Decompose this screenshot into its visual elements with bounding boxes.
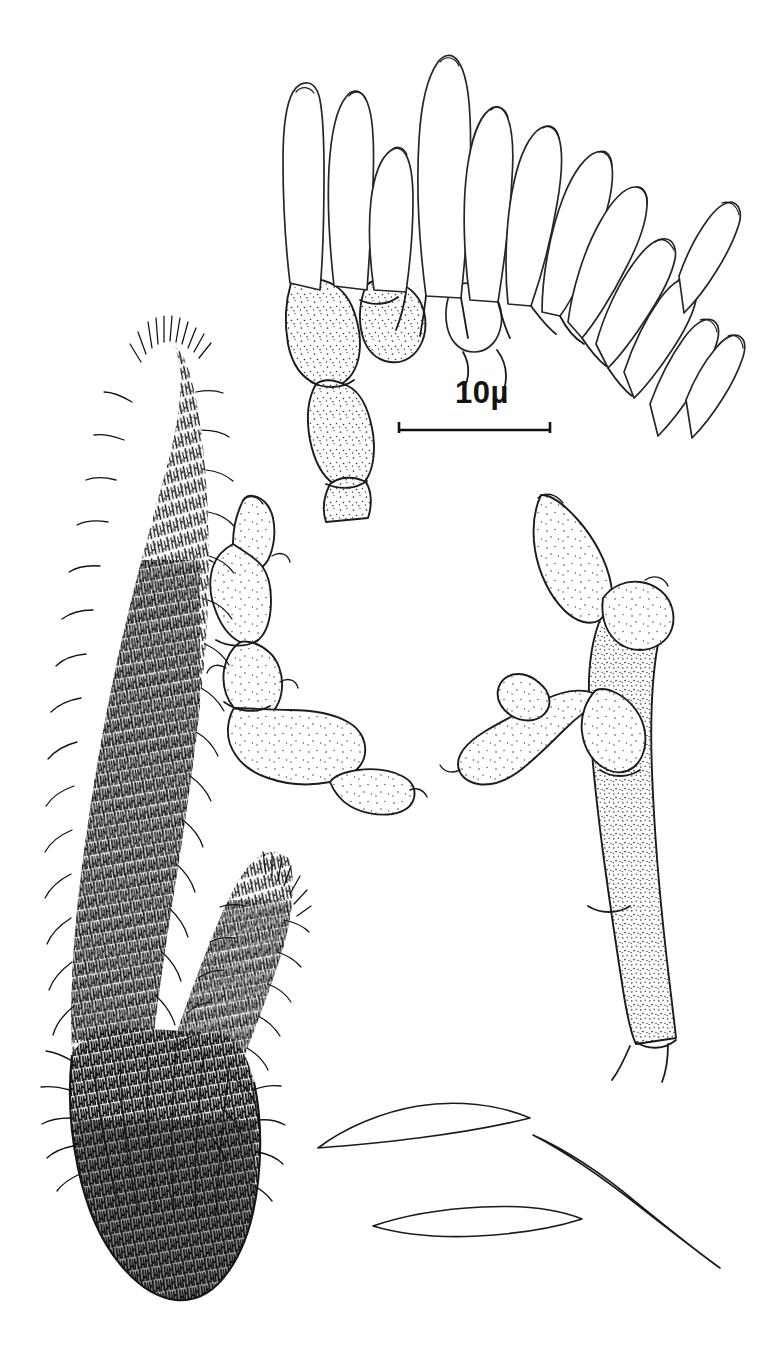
scalebar-label: 10µ xyxy=(455,375,509,411)
figure-plate: 10µ xyxy=(0,0,783,1347)
illustration-canvas xyxy=(0,0,783,1347)
fan-cell-4 xyxy=(418,55,471,298)
basal-cell-3 xyxy=(324,478,371,522)
fan-cell-1 xyxy=(283,83,324,290)
fan-cell-2 xyxy=(328,91,373,290)
